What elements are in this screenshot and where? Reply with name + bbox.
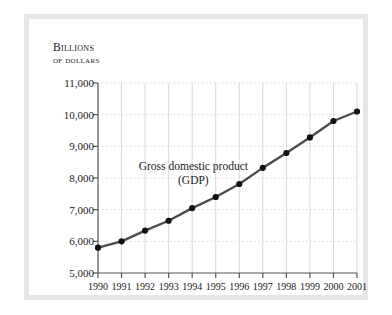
x-axis-tick-label: 2000 xyxy=(323,281,343,292)
y-axis-tick-label: 11,000 xyxy=(64,77,94,89)
plot-area: 5,0006,0007,0008,0009,00010,00011,000 19… xyxy=(29,19,363,295)
x-axis-tick-label: 1999 xyxy=(300,281,320,292)
x-axis-tick-label: 1997 xyxy=(253,281,273,292)
y-axis-tick-label: 10,000 xyxy=(64,109,94,121)
y-axis-tick-label: 7,000 xyxy=(69,204,94,216)
x-axis-tick-label: 1998 xyxy=(276,281,296,292)
x-axis-tick-label: 1995 xyxy=(206,281,226,292)
series-annotation: Gross domestic product (GDP) xyxy=(139,159,248,188)
y-axis-tick-labels: 5,0006,0007,0008,0009,00010,00011,000 xyxy=(39,19,94,295)
x-axis-tick-label: 1992 xyxy=(135,281,155,292)
series-annotation-line1: Gross domestic product xyxy=(139,160,248,172)
figure-card: Billions of dollars 5,0006,0007,0008,000… xyxy=(24,14,368,300)
y-axis-tick-label: 8,000 xyxy=(69,172,94,184)
x-axis-tick-label: 1991 xyxy=(112,281,132,292)
y-axis-tick-label: 6,000 xyxy=(69,235,94,247)
y-axis-tick-label: 9,000 xyxy=(69,140,94,152)
x-axis-tick-label: 1993 xyxy=(159,281,179,292)
series-annotation-line2: (GDP) xyxy=(178,174,209,186)
x-axis-tick-label: 1994 xyxy=(182,281,202,292)
x-axis-tick-label: 2001 xyxy=(347,281,367,292)
x-axis-tick-label: 1996 xyxy=(229,281,249,292)
y-axis-tick-label: 5,000 xyxy=(69,267,94,279)
x-axis-tick-label: 1990 xyxy=(88,281,108,292)
